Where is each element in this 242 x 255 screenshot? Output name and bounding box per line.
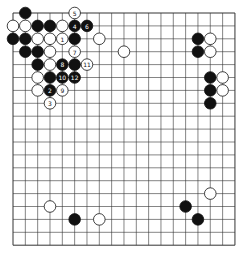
black-stone <box>20 7 32 19</box>
move-number: 6 <box>85 23 89 30</box>
black-stone <box>69 33 81 45</box>
white-stone <box>44 201 56 213</box>
black-stone <box>32 59 44 71</box>
white-stone: 7 <box>69 46 81 58</box>
black-stone: 12 <box>69 72 81 84</box>
move-number: 8 <box>60 61 64 68</box>
move-number: 4 <box>73 23 77 30</box>
move-number: 12 <box>71 74 79 81</box>
black-stone: 4 <box>69 20 81 32</box>
move-number: 9 <box>60 87 64 94</box>
black-stone <box>192 33 204 45</box>
move-number: 1 <box>60 36 64 43</box>
black-stone <box>20 33 32 45</box>
black-stone: 6 <box>81 20 93 32</box>
white-stone <box>94 214 106 226</box>
black-stone <box>192 46 204 58</box>
black-stone <box>204 85 216 97</box>
black-stone: 8 <box>57 59 69 71</box>
black-stone <box>204 72 216 84</box>
black-stone: 10 <box>57 72 69 84</box>
white-stone <box>118 46 130 58</box>
white-stone <box>217 85 229 97</box>
go-board: 546178111012293 <box>0 0 242 255</box>
white-stone <box>94 33 106 45</box>
black-stone <box>32 46 44 58</box>
white-stone <box>217 72 229 84</box>
white-stone <box>44 46 56 58</box>
white-stone <box>7 20 19 32</box>
move-number: 7 <box>73 49 77 56</box>
move-number: 3 <box>48 100 52 107</box>
white-stone <box>20 20 32 32</box>
white-stone <box>204 46 216 58</box>
move-number: 2 <box>48 87 52 94</box>
black-stone <box>44 72 56 84</box>
white-stone <box>44 33 56 45</box>
move-number: 5 <box>73 10 77 17</box>
white-stone <box>44 59 56 71</box>
black-stone <box>7 33 19 45</box>
black-stone <box>180 201 192 213</box>
black-stone <box>204 98 216 110</box>
black-stone <box>32 20 44 32</box>
white-stone <box>204 188 216 200</box>
black-stone <box>69 214 81 226</box>
white-stone <box>57 20 69 32</box>
white-stone <box>204 33 216 45</box>
white-stone: 5 <box>69 7 81 19</box>
white-stone <box>32 33 44 45</box>
black-stone <box>192 214 204 226</box>
move-number: 10 <box>58 74 66 81</box>
white-stone <box>32 85 44 97</box>
white-stone: 3 <box>44 98 56 110</box>
black-stone <box>44 20 56 32</box>
white-stone: 11 <box>81 59 93 71</box>
white-stone <box>32 72 44 84</box>
move-number: 11 <box>83 61 91 68</box>
black-stone: 2 <box>44 85 56 97</box>
black-stone <box>20 46 32 58</box>
black-stone <box>69 59 81 71</box>
white-stone: 9 <box>57 85 69 97</box>
white-stone: 1 <box>57 33 69 45</box>
